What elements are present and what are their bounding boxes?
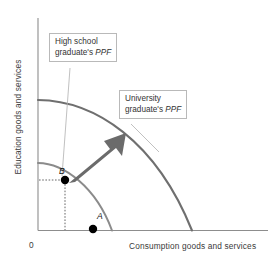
callout-high-school-line2: graduate's PPF [55,48,111,59]
callout-university-line2-prefix: graduate's [125,105,165,114]
point-b-marker [61,176,69,184]
origin-label: 0 [29,240,34,250]
callout-high-school-line1: High school [55,37,111,48]
leader-line-high-school [62,68,70,176]
point-a-marker [89,225,97,233]
callout-high-school-line2-prefix: graduate's [55,48,95,57]
ppf-figure: Education goods and services Consumption… [0,0,273,261]
x-axis-label: Consumption goods and services [129,241,256,251]
callout-university-ppf: University graduate's PPF [119,90,187,119]
ppf-shift-arrow [69,133,126,183]
point-a-label: A [97,211,103,221]
y-axis-label: Education goods and services [13,37,23,197]
callout-high-school-ppf-abbr: PPF [95,48,111,57]
callout-university-ppf-abbr: PPF [165,105,181,114]
ppf-chart-canvas [0,0,273,261]
callout-high-school-ppf: High school graduate's PPF [49,33,117,62]
callout-university-line2: graduate's PPF [125,105,181,116]
point-b-label: B [59,166,65,176]
leader-line-university [131,124,159,152]
callout-university-line1: University [125,94,181,105]
